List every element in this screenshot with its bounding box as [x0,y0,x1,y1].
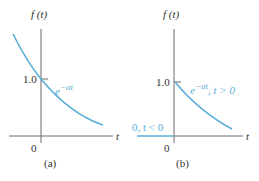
panel-a-tick-label: 1.0 [23,74,37,85]
panel-b-ylabel: f (t) [163,9,179,20]
panel-b-zero-label: 0, t < 0 [132,122,163,133]
panel-a-ylabel: f (t) [31,9,47,20]
panel-a-curve-label: e−at [55,83,73,97]
panel-a-xlabel: t [116,131,119,142]
panel-b-origin: 0 [164,143,170,154]
panel-a-origin: 0 [31,143,37,154]
curve-label-exp: −at [60,82,73,92]
panel-a-caption: (a) [44,158,56,169]
panel-b-tick-label: 1.0 [156,77,170,88]
curve-label-exp: −at [195,81,208,91]
panel-b-xlabel: t [246,131,249,142]
curve-label-cond: , t > 0 [208,84,235,96]
panel-b-caption: (b) [176,158,189,169]
panel-b-curve-label: e−at, t > 0 [190,82,235,96]
